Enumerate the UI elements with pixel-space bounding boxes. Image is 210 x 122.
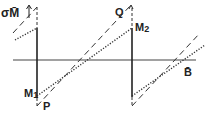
dotted-line-1 (15, 28, 37, 40)
p-label: P (43, 100, 50, 112)
x-axis-label: B̄ (184, 66, 192, 78)
sawtooth-diagram: σM̄ Q M2 M1 P B̄ (0, 0, 210, 122)
dotted-line-2 (37, 28, 132, 96)
m1-label: M1 (24, 87, 38, 100)
y-axis-label: σM̄ (1, 6, 19, 20)
q-label: Q (115, 6, 124, 18)
dashed-line-2 (37, 6, 130, 106)
q-arrow-icon (129, 5, 133, 9)
m2-label: M2 (135, 21, 149, 34)
dotted-line-3 (132, 45, 205, 96)
